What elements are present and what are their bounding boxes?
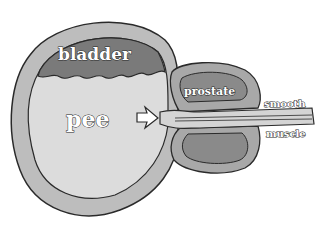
bladder-prostate-diagram: bladder pee prostate smooth muscle [0, 0, 324, 236]
label-muscle: muscle [266, 128, 306, 139]
label-pee: pee [66, 106, 109, 132]
label-bladder: bladder [58, 44, 132, 64]
label-prostate: prostate [184, 85, 235, 98]
prostate-lower-inner [182, 133, 247, 163]
label-smooth: smooth [264, 98, 306, 109]
